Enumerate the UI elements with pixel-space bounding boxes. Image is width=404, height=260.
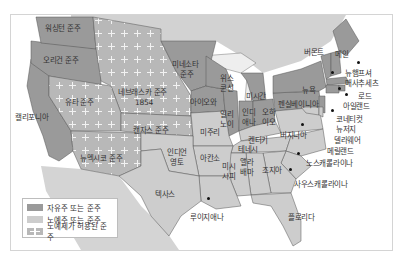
slavery-allowed-swatch: [27, 228, 43, 235]
label-vermont: 버몬트: [304, 48, 324, 57]
label-oregon: 오리건 준주: [43, 56, 79, 65]
label-washington: 워싱턴 준주: [45, 24, 81, 33]
capital-marker: [289, 168, 292, 171]
capital-marker: [357, 61, 360, 64]
label-indian-territory: 인디언: [167, 148, 187, 157]
capital-marker: [345, 93, 348, 96]
label-mississippi: 미시: [222, 162, 235, 171]
label-arkansas: 아칸소: [200, 154, 220, 163]
capital-marker: [331, 71, 334, 74]
label-indiana-2: 애나: [242, 118, 255, 127]
label-minnesota: 미네소타: [172, 60, 199, 69]
label-illinois-2: 노이: [220, 120, 233, 129]
capital-marker: [338, 87, 341, 90]
label-connecticut: 코네티컷: [336, 115, 363, 124]
connecticut: [326, 85, 339, 93]
label-new-jersey: 뉴저지: [336, 125, 356, 134]
label-pennsylvania: 펜실베이니아: [278, 100, 318, 109]
label-georgia: 조지아: [262, 166, 282, 175]
capital-marker: [331, 109, 334, 112]
label-maryland: 메릴랜드: [327, 147, 354, 156]
label-california: 캘리포니아: [15, 113, 49, 122]
label-tennessee: 테네시: [238, 145, 258, 154]
label-florida: 플로리다: [288, 213, 315, 222]
label-wisconsin: 위스: [220, 74, 233, 83]
label-alabama-2: 배마: [240, 168, 253, 177]
legend-item-free: 자유주 또는 준주: [27, 201, 113, 213]
legend-label: 자유주 또는 준주: [47, 202, 101, 213]
label-indiana: 인디: [242, 108, 255, 117]
label-wisconsin-2: 콘신: [220, 84, 233, 93]
label-ohio: 오하: [262, 108, 275, 117]
label-iowa: 아이오와: [190, 98, 217, 107]
label-south-carolina: 사우스캐롤라이나: [294, 180, 348, 189]
label-north-carolina: 노스캐롤라이나: [306, 159, 353, 168]
label-massachusetts: 매사추세츠: [345, 79, 379, 88]
label-kentucky: 켄터키: [248, 136, 268, 145]
label-louisiana: 루이지애나: [190, 213, 224, 222]
label-nebraska: 네브래스카 준주: [118, 88, 167, 97]
label-virginia: 버지니아: [280, 131, 307, 140]
delaware: [319, 107, 323, 117]
label-alabama: 앨라: [240, 158, 253, 167]
label-indian-territory-2: 영토: [170, 158, 183, 167]
label-kansas: 캔자스 준주: [133, 126, 169, 135]
legend-label: 노예제가 허용된 준주: [47, 220, 113, 242]
capital-marker: [301, 123, 304, 126]
capital-marker: [207, 197, 210, 200]
label-texas: 텍사스: [155, 190, 175, 199]
label-new-york: 뉴욕: [302, 86, 315, 95]
label-minnesota-2: 준주: [180, 70, 193, 79]
label-rhode-island: 로드: [358, 92, 371, 101]
label-michigan: 미시간: [246, 92, 266, 101]
label-illinois: 일리: [220, 110, 233, 119]
label-utah: 유타 준주: [65, 98, 94, 107]
capital-marker: [297, 152, 300, 155]
label-missouri: 미주리: [200, 128, 220, 137]
label-rhode-island-2: 아일랜드: [343, 102, 370, 111]
legend-item-allowed: 노예제가 허용된 준주: [27, 225, 113, 237]
label-mississippi-2: 시피: [222, 172, 235, 181]
slave-state-swatch: [27, 216, 43, 223]
label-ohio-2: 이오: [262, 118, 275, 127]
map-legend: 자유주 또는 준주 노예주 또는 준주 노예제가 허용된 준주: [22, 198, 118, 238]
free-state-swatch: [27, 204, 43, 211]
label-delaware: 델라웨어: [334, 136, 361, 145]
label-new-mexico: 뉴멕시코 준주: [80, 154, 122, 163]
label-nebraska-year: 1854: [135, 98, 153, 107]
label-new-hampshire: 뉴햄프셔: [345, 69, 372, 78]
label-maine: 메인: [335, 50, 348, 59]
